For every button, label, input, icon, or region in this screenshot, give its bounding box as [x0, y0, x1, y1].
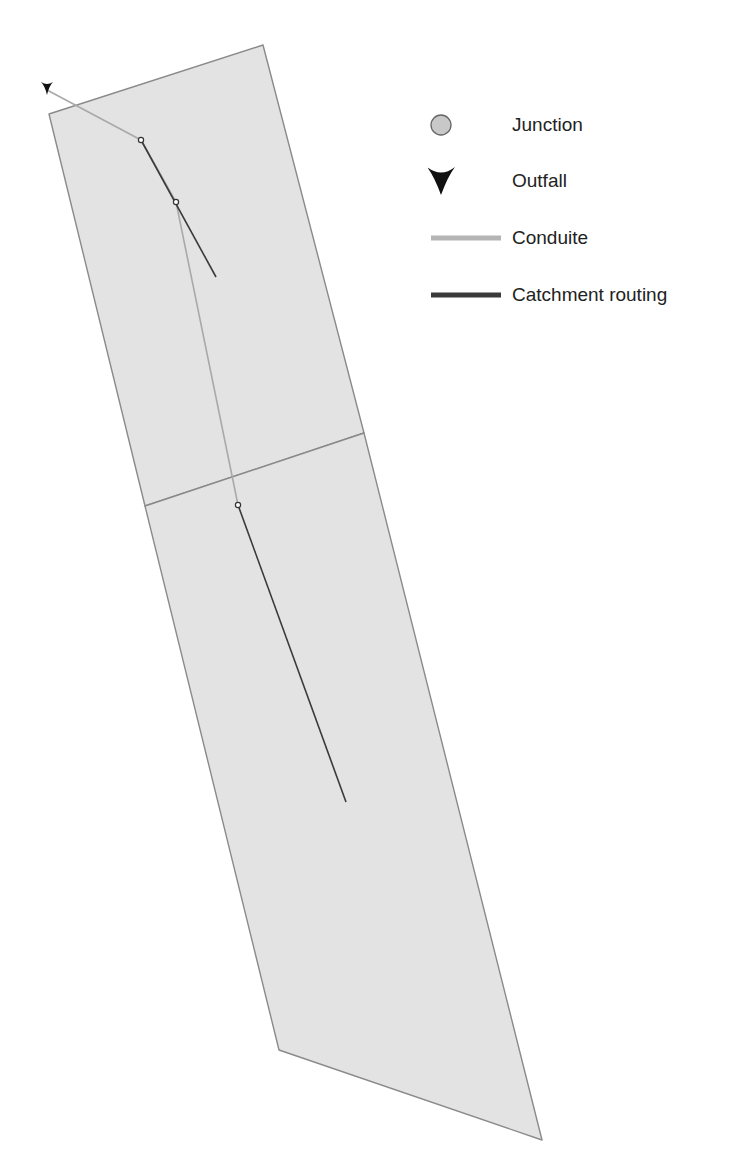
junction-3[interactable] — [235, 502, 240, 507]
legend-item-conduit: Conduite — [428, 221, 728, 255]
upper-subcatchment[interactable] — [49, 45, 364, 506]
legend-item-catchment-routing: Catchment routing — [428, 278, 728, 312]
legend-label-junction: Junction — [512, 113, 583, 137]
legend-item-outfall: Outfall — [428, 164, 728, 198]
legend-label-conduit: Conduite — [512, 226, 588, 250]
outfall-arrow-icon — [428, 164, 503, 198]
routing-line-icon — [428, 278, 503, 312]
junction-1[interactable] — [138, 137, 143, 142]
legend-item-junction: Junction — [428, 108, 728, 142]
legend-label-outfall: Outfall — [512, 169, 567, 193]
junction-circle-icon — [428, 108, 503, 142]
subcatchments-layer — [49, 45, 542, 1140]
conduit-line-icon — [428, 221, 503, 255]
junction-2[interactable] — [173, 199, 178, 204]
legend-label-catchment-routing: Catchment routing — [512, 283, 667, 307]
lower-subcatchment[interactable] — [145, 433, 542, 1140]
